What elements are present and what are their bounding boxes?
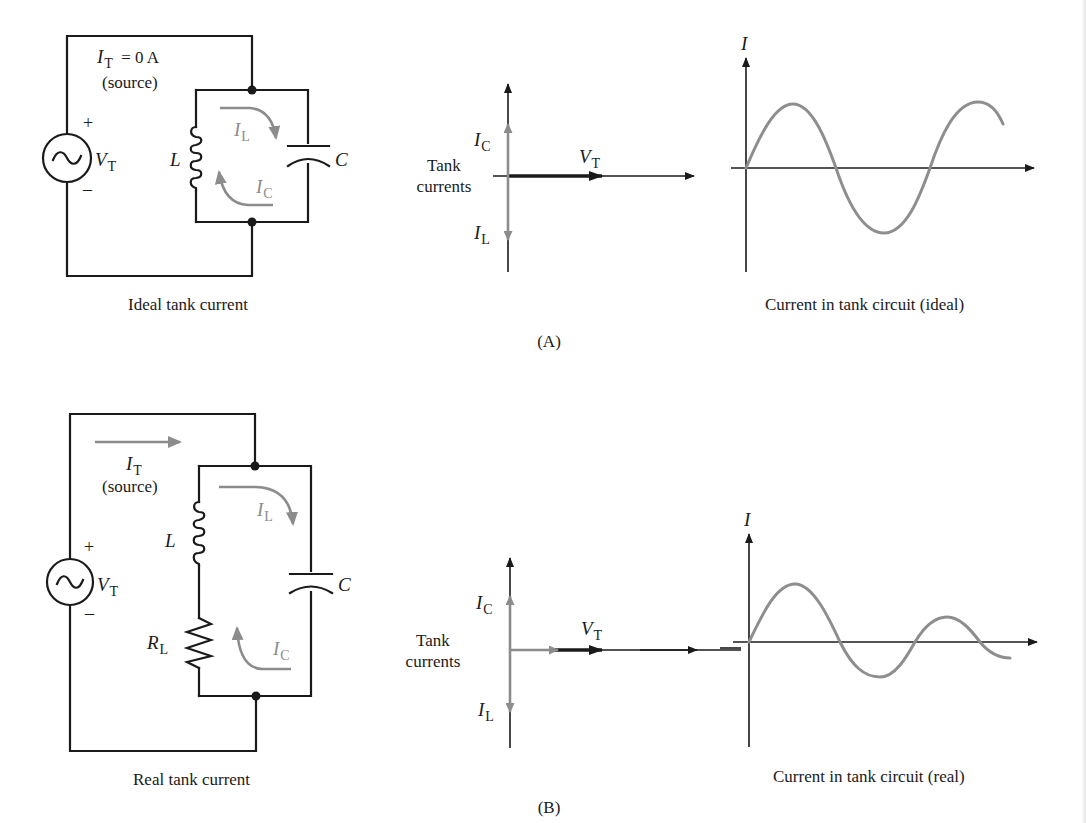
subscript: L	[160, 642, 169, 657]
circuit-caption-a: Ideal tank current	[128, 296, 248, 313]
circuit-caption-b: Real tank current	[133, 771, 250, 788]
ac-source-icon	[47, 559, 93, 605]
label-line-2: currents	[406, 653, 461, 670]
symbol: V	[97, 574, 109, 595]
subscript: L	[481, 232, 490, 247]
subscript: T	[133, 463, 142, 478]
source-note-a: (source)	[102, 74, 158, 91]
ic-phasor-label-b: IC	[476, 593, 493, 612]
subscript: T	[594, 628, 603, 643]
label-line-1: Tank	[417, 157, 472, 174]
symbol: I	[97, 46, 103, 67]
node-dot-bottom-b	[252, 692, 261, 701]
symbol: I	[474, 222, 480, 243]
phasor-a	[493, 84, 694, 272]
waveform-chart-b	[720, 534, 1037, 747]
il-phasor-label-a: IL	[474, 223, 490, 242]
subscript: C	[280, 648, 289, 663]
subscript: T	[592, 156, 601, 171]
outer-wire-top-a	[67, 36, 252, 134]
symbol: I	[476, 592, 482, 613]
tank-wire-right-bottom-a	[196, 164, 308, 222]
capacitor-label-b: C	[338, 575, 351, 594]
source-current-label-a: IT = 0 A	[97, 47, 159, 66]
capacitor-icon	[290, 574, 332, 593]
source-current-label-b: IT	[126, 454, 142, 473]
capacitor-label-a: C	[335, 150, 348, 169]
symbol: I	[257, 499, 263, 520]
tank-wire-right-top-b	[199, 466, 311, 571]
ac-source-icon	[43, 134, 91, 182]
panel-tag-a: (A)	[537, 333, 561, 350]
node-dot-bottom-a	[248, 218, 257, 227]
symbol: I	[474, 129, 480, 150]
symbol: I	[234, 119, 240, 140]
symbol: I	[478, 699, 484, 720]
subscript: C	[263, 186, 272, 201]
source-voltage-label-a: VT	[95, 150, 116, 169]
page-edge-shadow	[1081, 0, 1086, 823]
il-phasor-label-b: IL	[478, 700, 494, 719]
outer-wire-bottom-a	[67, 182, 252, 276]
subscript: L	[264, 509, 273, 524]
inductor-icon	[191, 127, 202, 190]
node-dot-top-b	[251, 462, 260, 471]
waveform-caption-a: Current in tank circuit (ideal)	[765, 296, 964, 313]
inductor-label-b: L	[165, 531, 176, 550]
waveform-caption-b: Current in tank circuit (real)	[773, 768, 965, 785]
subscript: T	[104, 56, 113, 71]
symbol: I	[256, 176, 262, 197]
vt-phasor-label-a: VT	[579, 147, 600, 166]
source-voltage-label-b: VT	[97, 575, 118, 594]
il-arrow-b	[219, 487, 293, 524]
il-label-a: IL	[234, 120, 250, 139]
subscript: C	[483, 602, 492, 617]
resistor-label-b: RL	[147, 633, 168, 652]
ic-phasor-label-a: IC	[474, 130, 491, 149]
tank-wire-right-top-a	[196, 90, 308, 143]
resistor-icon	[187, 618, 211, 668]
subscript: C	[481, 139, 490, 154]
phasor-b	[510, 558, 741, 748]
node-dot-top-a	[248, 86, 257, 95]
symbol: V	[581, 618, 593, 639]
outer-wire-bottom-b	[70, 605, 256, 751]
minus-sign-b: –	[85, 604, 94, 622]
ic-label-b: IC	[273, 639, 290, 658]
tank-currents-label-b: Tank currents	[406, 632, 461, 670]
panel-tag-b: (B)	[538, 799, 561, 816]
symbol: I	[126, 453, 132, 474]
inductor-icon	[194, 502, 205, 566]
tank-wire-right-bottom-b	[199, 592, 311, 696]
waveform-chart-a	[731, 58, 1034, 272]
il-label-b: IL	[257, 500, 273, 519]
label-line-1: Tank	[406, 632, 461, 649]
plus-sign-a: +	[83, 114, 93, 132]
vt-phasor-label-b: VT	[581, 619, 602, 638]
symbol: R	[147, 632, 159, 653]
figure-graphics	[0, 0, 1086, 823]
inductor-label-a: L	[170, 150, 181, 169]
circuit-b	[47, 414, 332, 751]
symbol: V	[95, 149, 107, 170]
source-note-b: (source)	[102, 478, 158, 495]
plus-sign-b: +	[84, 538, 94, 556]
subscript: T	[110, 584, 119, 599]
tank-circuit-figure: IT = 0 A (source) + – VT L C IL IC Ideal…	[0, 0, 1086, 823]
subscript: L	[485, 709, 494, 724]
subscript: L	[241, 129, 250, 144]
minus-sign-a: –	[83, 180, 92, 198]
tank-currents-label-a: Tank currents	[417, 157, 472, 195]
symbol: I	[273, 638, 279, 659]
source-current-value: = 0 A	[121, 48, 159, 67]
subscript: T	[108, 159, 117, 174]
damped-wave-real	[749, 584, 1010, 677]
ic-label-a: IC	[256, 177, 273, 196]
symbol: V	[579, 146, 591, 167]
circuit-a	[43, 36, 329, 276]
label-line-2: currents	[417, 178, 472, 195]
waveform-axis-label-b: I	[744, 510, 750, 529]
waveform-axis-label-a: I	[741, 34, 747, 53]
